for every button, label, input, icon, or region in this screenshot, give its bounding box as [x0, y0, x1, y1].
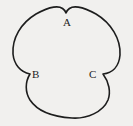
vertex-label-b: B [32, 69, 39, 80]
vertex-label-a: A [63, 17, 71, 28]
vertex-label-c: C [89, 69, 96, 80]
figure-canvas: A B C [0, 0, 133, 126]
